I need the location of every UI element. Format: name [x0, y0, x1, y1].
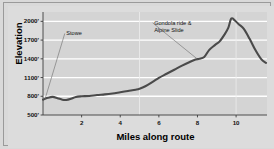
- x-axis-title: Miles along route: [43, 131, 268, 142]
- x-tick-label-2: 2: [72, 119, 92, 126]
- annotation-stowe: Stowe: [66, 30, 82, 37]
- annotation-gondola: Gondola ride &Alpine Slide: [154, 20, 191, 34]
- x-tick-label-10: 10: [226, 119, 246, 126]
- annotation-gondola-line-0: Gondola ride &: [154, 20, 191, 27]
- y-tick-label-800: 800': [7, 92, 39, 99]
- annotation-gondola-line-1: Alpine Slide: [154, 27, 191, 34]
- y-tick-label-500: 500': [7, 111, 39, 118]
- x-tick-label-8: 8: [187, 119, 207, 126]
- chart-figure: 500'800'1100'1400'1700'2000' 246810 Elev…: [0, 0, 274, 149]
- elevation-line-chart: [0, 0, 274, 149]
- y-axis-title: Elevation: [13, 4, 24, 84]
- annotation-stowe-line-0: Stowe: [66, 30, 82, 37]
- x-tick-label-6: 6: [149, 119, 169, 126]
- x-tick-label-4: 4: [110, 119, 130, 126]
